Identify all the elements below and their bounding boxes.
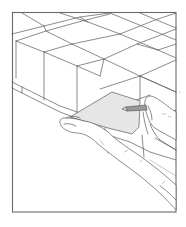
right-hand xyxy=(143,96,176,150)
block-cutting-illustration xyxy=(0,0,186,227)
